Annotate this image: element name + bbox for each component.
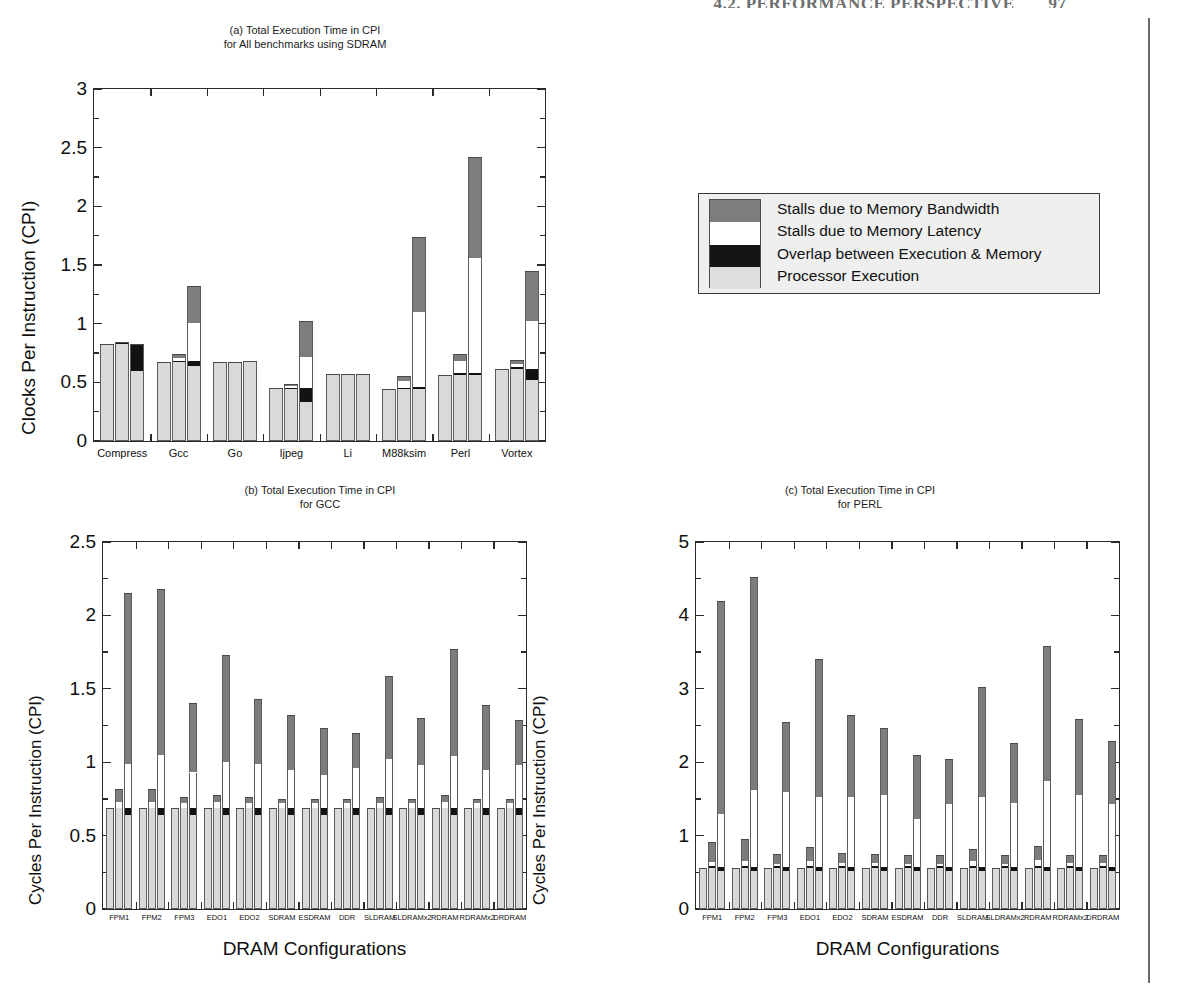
bar-segment-execution xyxy=(341,374,355,441)
bar-segment-bandwidth xyxy=(815,659,823,797)
x-tick-top xyxy=(493,542,494,549)
bar-segment-latency xyxy=(115,802,123,808)
x-tick-top xyxy=(729,542,730,549)
bar xyxy=(187,286,201,441)
bar-top-cap xyxy=(441,795,449,796)
bar xyxy=(1034,846,1042,909)
bar-segment-execution xyxy=(408,808,416,909)
x-category-label: SLDRAM xyxy=(957,913,988,922)
bar-segment-bandwidth xyxy=(945,759,953,805)
bar-segment-overlap xyxy=(1108,867,1116,871)
bar-segment-overlap xyxy=(1001,866,1009,867)
x-category-label: ESDRAM xyxy=(298,913,330,922)
bar xyxy=(1057,868,1065,909)
x-category-label: Li xyxy=(343,447,352,459)
bar-top-cap xyxy=(417,718,425,719)
bar-segment-execution xyxy=(806,868,814,909)
bar-top-cap xyxy=(1057,868,1065,869)
bar-segment-latency xyxy=(254,764,262,808)
x-tick-top xyxy=(331,542,332,549)
bar-top-cap xyxy=(797,868,805,869)
bar-segment-execution xyxy=(708,868,716,909)
x-tick-bottom xyxy=(432,434,433,441)
y-tick-minor xyxy=(696,578,701,579)
bar-top-cap xyxy=(385,676,393,677)
x-tick-top xyxy=(1054,542,1055,549)
bar-segment-bandwidth xyxy=(213,795,221,802)
x-tick-top xyxy=(266,542,267,549)
bar-segment-execution xyxy=(124,815,132,909)
bar-segment-latency xyxy=(245,803,253,807)
x-tick-top xyxy=(859,542,860,549)
y-tick-label: 0 xyxy=(85,898,96,920)
bar-segment-execution xyxy=(115,344,129,441)
bar xyxy=(927,868,935,909)
bar-segment-overlap xyxy=(1075,867,1083,871)
bar-segment-latency xyxy=(913,819,921,867)
bar-segment-overlap xyxy=(172,361,186,362)
bar xyxy=(343,799,351,909)
x-tick-bottom xyxy=(489,434,490,441)
bar-segment-execution xyxy=(343,808,351,909)
x-tick-bottom xyxy=(989,902,990,909)
bar-segment-overlap xyxy=(254,808,262,815)
bar xyxy=(515,720,523,909)
bar-segment-execution xyxy=(732,868,740,909)
bar-top-cap xyxy=(100,344,114,345)
bar-segment-execution xyxy=(468,375,482,441)
bar-top-cap xyxy=(960,868,968,869)
figure-c-x-axis-label: DRAM Configurations xyxy=(695,938,1120,960)
bar-top-cap xyxy=(510,360,524,361)
bar-segment-execution xyxy=(441,808,449,909)
bar-segment-bandwidth xyxy=(750,577,758,790)
bar-segment-overlap xyxy=(815,867,823,871)
bar xyxy=(732,868,740,909)
x-tick-top xyxy=(233,542,234,549)
bar-segment-latency xyxy=(222,762,230,808)
bar xyxy=(326,374,340,441)
bar-segment-execution xyxy=(180,808,188,909)
bar-top-cap xyxy=(408,799,416,800)
y-tick-label: 0.5 xyxy=(61,371,87,393)
y-tick-major xyxy=(94,206,102,207)
bar-segment-execution xyxy=(450,815,458,909)
bar-top-cap xyxy=(287,715,295,716)
bar-top-cap xyxy=(341,374,355,375)
bar-top-cap xyxy=(106,808,114,809)
bar-segment-bandwidth xyxy=(189,704,197,773)
bar-top-cap xyxy=(880,728,888,729)
x-tick-top xyxy=(263,89,264,96)
bar-segment-execution xyxy=(525,380,539,441)
bar xyxy=(130,344,144,441)
x-category-label: ESDRAM xyxy=(891,913,923,922)
bar-segment-latency xyxy=(180,803,188,807)
bar-segment-bandwidth xyxy=(847,715,855,798)
bar-top-cap xyxy=(269,808,277,809)
figure-c-title: (c) Total Execution Time in CPI for PERL xyxy=(650,483,1070,511)
bar-segment-bandwidth xyxy=(1108,741,1116,804)
y-tick-major xyxy=(518,541,526,542)
bar-top-cap xyxy=(245,797,253,798)
bar-segment-bandwidth xyxy=(978,687,986,798)
bar-segment-execution xyxy=(302,808,310,909)
bar xyxy=(341,374,355,441)
bar-segment-bandwidth xyxy=(717,601,725,814)
bar xyxy=(417,718,425,909)
y-tick-label: 5 xyxy=(678,531,689,553)
bar-segment-latency xyxy=(320,775,328,807)
bar-segment-bandwidth xyxy=(880,728,888,794)
x-tick-bottom xyxy=(428,902,429,909)
figure-b-x-axis-label: DRAM Configurations xyxy=(102,938,527,960)
bar-segment-execution xyxy=(397,389,411,441)
bar-segment-overlap xyxy=(450,808,458,815)
bar-segment-latency xyxy=(124,764,132,808)
bar-top-cap xyxy=(115,789,123,790)
bar xyxy=(189,703,197,909)
bar-segment-latency xyxy=(187,323,201,362)
x-tick-bottom xyxy=(1086,902,1087,909)
bar-segment-execution xyxy=(750,871,758,909)
bar xyxy=(213,362,227,441)
x-category-label: EDO2 xyxy=(832,913,852,922)
bar-segment-latency xyxy=(473,803,481,807)
bar-segment-execution xyxy=(1066,868,1074,909)
